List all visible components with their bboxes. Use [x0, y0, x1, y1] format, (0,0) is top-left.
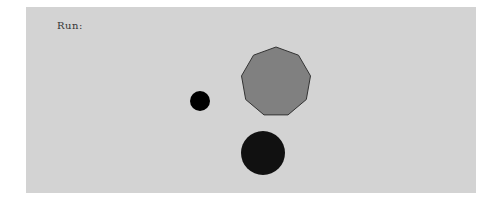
nonagon-shape[interactable] [242, 47, 311, 115]
shapes-layer [0, 0, 499, 200]
small-circle[interactable] [190, 91, 210, 111]
large-circle[interactable] [241, 131, 285, 175]
